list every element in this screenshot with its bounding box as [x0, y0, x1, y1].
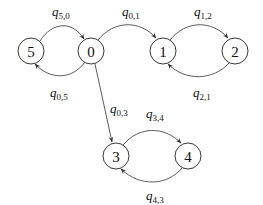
edge-label-1-2: q1,2: [194, 4, 212, 21]
svg-text:5: 5: [27, 44, 35, 60]
state-node-2: 2: [222, 38, 248, 64]
edge-1-2: [170, 25, 228, 40]
svg-text:0: 0: [87, 44, 95, 60]
state-node-0: 0: [78, 38, 104, 64]
edge-5-0: [40, 26, 84, 41]
edge-0-1: [98, 25, 156, 40]
edge-label-2-1: q2,1: [193, 85, 211, 102]
svg-text:1: 1: [159, 44, 167, 60]
svg-text:2: 2: [231, 44, 239, 60]
edge-label-0-5: q0,5: [50, 85, 68, 102]
edge-0-5: [35, 62, 85, 76]
edge-label-4-3: q4,3: [146, 188, 164, 205]
edge-4-3: [121, 168, 182, 182]
state-diagram: q5,0 q0,5 q0,1 q1,2 q2,1 q0,3 q3,4 q4,3 …: [0, 0, 263, 205]
svg-text:4: 4: [184, 149, 192, 165]
edge-2-1: [168, 63, 229, 77]
state-node-3: 3: [103, 143, 129, 169]
edge-label-3-4: q3,4: [146, 106, 164, 123]
edge-3-4: [123, 130, 181, 145]
state-node-1: 1: [150, 38, 176, 64]
state-node-5: 5: [18, 38, 44, 64]
state-node-4: 4: [175, 143, 201, 169]
edge-label-5-0: q5,0: [52, 4, 70, 21]
edge-label-0-3: q0,3: [110, 101, 128, 118]
svg-text:3: 3: [112, 149, 120, 165]
edge-label-0-1: q0,1: [122, 4, 140, 21]
